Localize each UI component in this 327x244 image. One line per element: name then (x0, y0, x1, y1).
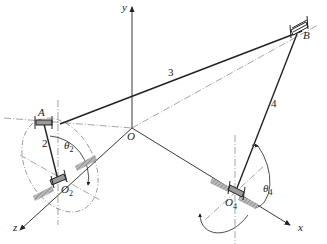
linkage-diagram: y x z O A B O2 O4 2 3 4 θ2 θ4 (0, 0, 327, 244)
y-axis-label: y (122, 2, 127, 13)
theta4-arc (254, 146, 270, 208)
point-o4-label: O4 (225, 197, 237, 211)
link-3-label: 3 (168, 67, 174, 78)
x-axis (132, 128, 290, 225)
diagram-canvas (0, 0, 327, 244)
point-o2-label: O2 (61, 184, 73, 198)
crank-path-ellipse (7, 105, 114, 225)
x-axis-label: x (298, 222, 303, 233)
point-b-label: B (303, 30, 310, 41)
theta2-label: θ2 (64, 140, 73, 154)
theta4-label: θ4 (263, 183, 272, 197)
link-2-label: 2 (42, 138, 48, 149)
link-2 (44, 124, 58, 180)
centerlines (4, 25, 318, 244)
link-4-label: 4 (271, 98, 277, 109)
origin-label: O (127, 131, 135, 142)
point-a-label: A (38, 107, 45, 118)
theta4-arc-lower (200, 214, 248, 233)
z-axis (20, 128, 132, 230)
z-axis-label: z (13, 222, 17, 233)
link-3 (60, 31, 302, 124)
